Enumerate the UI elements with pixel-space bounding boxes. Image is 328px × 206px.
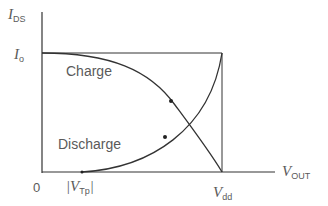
io-label: Io — [14, 46, 24, 64]
vtp-label: |VTp| — [66, 178, 94, 196]
vtp-marker — [81, 171, 84, 174]
iv-diagram-canvas — [0, 0, 328, 206]
vdd-label: Vdd — [213, 184, 232, 202]
charge-label: Charge — [66, 63, 112, 79]
charge-arrow-icon — [169, 99, 173, 103]
x-axis-label: VOUT — [282, 163, 310, 181]
origin-label: 0 — [33, 180, 40, 195]
discharge-label: Discharge — [58, 136, 121, 152]
y-axis-label: IDS — [8, 6, 26, 24]
discharge-arrow-icon — [163, 135, 167, 139]
